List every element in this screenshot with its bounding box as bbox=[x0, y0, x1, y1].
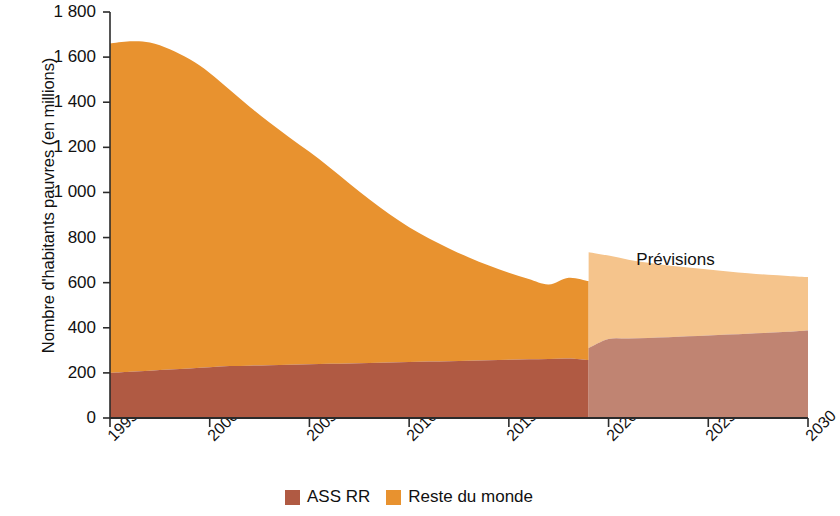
legend-swatch-icon bbox=[285, 490, 300, 505]
area-series-group bbox=[110, 41, 808, 418]
legend-label: Reste du monde bbox=[408, 487, 533, 507]
legend-entry[interactable]: Reste du monde bbox=[386, 487, 533, 507]
area-reste-du-monde-historical bbox=[110, 41, 589, 373]
legend-entry[interactable]: ASS RR bbox=[285, 487, 370, 507]
legend-swatch-icon bbox=[386, 490, 401, 505]
chart-legend: ASS RRReste du monde bbox=[0, 487, 818, 507]
area-ass-rr-forecast bbox=[589, 330, 808, 418]
forecast-annotation-label: Prévisions bbox=[636, 250, 714, 270]
legend-label: ASS RR bbox=[307, 487, 370, 507]
